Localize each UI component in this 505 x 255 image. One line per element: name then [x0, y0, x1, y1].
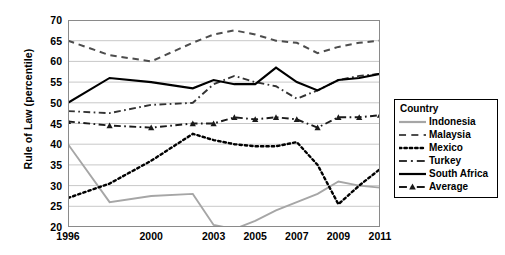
x-axis-tick-label: 2009 [327, 230, 350, 242]
x-axis-tick-label: 2003 [202, 230, 225, 242]
y-axis-tick-label: 30 [38, 180, 62, 192]
legend-item-average[interactable]: Average [399, 180, 493, 193]
legend-entries: IndonesiaMalaysiaMexicoTurkeySouth Afric… [399, 115, 493, 193]
y-axis-tick-label: 25 [38, 200, 62, 212]
y-axis-tick-label: 55 [38, 76, 62, 88]
legend-item-indonesia[interactable]: Indonesia [399, 115, 493, 128]
x-axis-tick-label: 2005 [244, 230, 267, 242]
legend-item-turkey[interactable]: Turkey [399, 154, 493, 167]
y-axis-title: Rule of Law (percentile) [22, 34, 34, 184]
legend-line-swatch [399, 142, 426, 154]
legend-line-swatch [399, 181, 426, 193]
x-axis-tick-label: 2011 [369, 230, 392, 242]
legend-line-swatch [399, 129, 426, 141]
legend-line-swatch [399, 155, 426, 167]
plot-border [68, 20, 380, 227]
legend-item-south-africa[interactable]: South Africa [399, 167, 493, 180]
legend-label: Indonesia [429, 116, 476, 127]
legend-item-mexico[interactable]: Mexico [399, 141, 493, 154]
x-axis-tick-label: 1996 [56, 230, 79, 242]
legend-line-swatch [399, 168, 426, 180]
legend-item-malaysia[interactable]: Malaysia [399, 128, 493, 141]
x-axis-tick-label: 2007 [285, 230, 308, 242]
legend: Country IndonesiaMalaysiaMexicoTurkeySou… [394, 99, 498, 198]
plot-area [68, 20, 380, 227]
y-axis-tick-label: 60 [38, 55, 62, 67]
y-axis-tick-label: 40 [38, 138, 62, 150]
y-axis-tick-labels: 2025303540455055606570 [34, 0, 62, 255]
legend-label: South Africa [429, 168, 488, 179]
x-axis-tick-label: 2000 [140, 230, 163, 242]
legend-label: Average [429, 181, 468, 192]
legend-label: Malaysia [429, 129, 471, 140]
legend-label: Turkey [429, 155, 461, 166]
legend-title: Country [400, 103, 493, 114]
x-axis-tick-labels: 1996200020032005200720092011 [0, 230, 505, 250]
chart-container: Rule of Law (percentile) 202530354045505… [0, 0, 505, 255]
y-axis-tick-label: 35 [38, 159, 62, 171]
y-axis-tick-label: 70 [38, 14, 62, 26]
y-axis-tick-label: 50 [38, 97, 62, 109]
y-axis-tick-label: 45 [38, 118, 62, 130]
legend-label: Mexico [429, 142, 463, 153]
legend-line-swatch [399, 116, 426, 128]
y-axis-tick-label: 65 [38, 35, 62, 47]
